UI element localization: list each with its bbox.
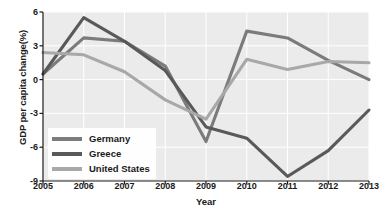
x-axis-title: Year [43, 196, 369, 207]
x-tick-label: 2013 [349, 181, 384, 191]
legend-item: Germany [52, 131, 150, 146]
legend-swatch-icon [52, 152, 82, 156]
x-tick-label: 2006 [64, 181, 104, 191]
x-tick-label: 2005 [23, 181, 63, 191]
legend-swatch-icon [52, 137, 82, 141]
legend-item: United States [52, 161, 150, 176]
chart-legend: GermanyGreeceUnited States [48, 128, 156, 179]
x-tick-label: 2011 [268, 181, 308, 191]
x-tick-label: 2009 [186, 181, 226, 191]
legend-item: Greece [52, 146, 150, 161]
legend-label: Germany [89, 133, 130, 144]
legend-swatch-icon [52, 167, 82, 171]
x-tick-label: 2012 [308, 181, 348, 191]
x-tick-label: 2010 [227, 181, 267, 191]
x-tick-label: 2008 [145, 181, 185, 191]
legend-label: Greece [89, 148, 121, 159]
legend-label: United States [89, 163, 150, 174]
x-tick-label: 2007 [105, 181, 145, 191]
x-axis-tick-labels: 200520062007200820092010201120122013 [0, 181, 375, 195]
